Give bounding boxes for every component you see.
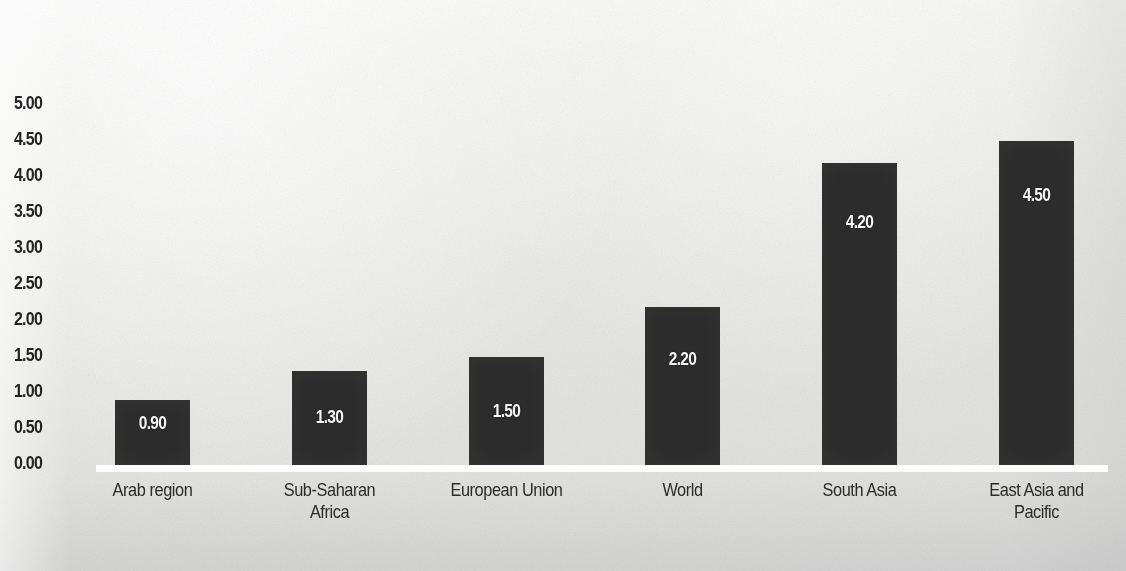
category-label-south-asia: South Asia [808, 479, 910, 501]
category-label-world: World [633, 479, 732, 501]
category-label-east-asia-and-pacific: East Asia and Pacific [980, 479, 1093, 524]
y-tick-label-1-5: 1.50 [14, 345, 64, 364]
bar-value-label: 4.50 [1004, 186, 1069, 204]
bar-value-label: 0.90 [120, 414, 185, 432]
x-axis-baseline [96, 465, 1108, 472]
category-label-sub-saharan-africa: Sub-Saharan Africa [273, 479, 386, 524]
y-tick-label-0: 0.00 [14, 453, 64, 472]
y-tick-label-2-5: 2.50 [14, 273, 64, 292]
bar-world[interactable]: 2.20 [645, 307, 720, 465]
y-tick-label-1: 1.00 [14, 381, 64, 400]
y-tick-label-4-5: 4.50 [14, 129, 64, 148]
y-tick-label-2: 2.00 [14, 309, 64, 328]
category-label-arab-region: Arab region [103, 479, 202, 501]
y-tick-label-5: 5.00 [14, 93, 64, 112]
bar-value-label: 1.30 [297, 408, 362, 426]
bar-value-label: 2.20 [650, 350, 715, 368]
y-tick-label-0-5: 0.50 [14, 417, 64, 436]
bar-european-union[interactable]: 1.50 [469, 357, 544, 465]
bar-value-label: 1.50 [474, 402, 539, 420]
bar-east-asia-and-pacific[interactable]: 4.50 [999, 141, 1074, 465]
y-tick-label-4: 4.00 [14, 165, 64, 184]
bar-arab-region[interactable]: 0.90 [115, 400, 190, 465]
y-tick-label-3: 3.00 [14, 237, 64, 256]
bar-south-asia[interactable]: 4.20 [822, 163, 897, 465]
bar-chart: 5.00 4.50 4.00 3.50 3.00 2.50 2.00 1.50 … [0, 0, 1126, 571]
bar-sub-saharan-africa[interactable]: 1.30 [292, 371, 367, 465]
y-tick-label-3-5: 3.50 [14, 201, 64, 220]
bar-value-label: 4.20 [827, 213, 892, 231]
category-label-european-union: European Union [447, 479, 567, 501]
